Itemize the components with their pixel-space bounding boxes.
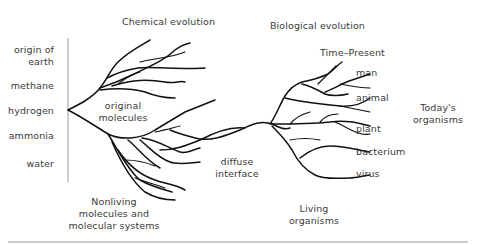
origin-line2: earth <box>6 56 54 68</box>
living-line2: organisms <box>286 215 342 227</box>
label-living-organisms: Living organisms <box>286 203 342 227</box>
time-present-label: Time–Present <box>320 47 385 59</box>
diffuse-line1: diffuse <box>212 156 262 168</box>
label-water: water <box>4 158 54 170</box>
origin-line1: origin of <box>6 44 54 56</box>
chemical-evolution-title: Chemical evolution <box>122 16 212 28</box>
diffuse-line2: interface <box>212 168 262 180</box>
label-origin-of-earth: origin of earth <box>6 44 54 68</box>
label-original-molecules: original molecules <box>98 100 148 124</box>
biological-line1: Biological evolution <box>270 20 350 32</box>
label-methane: methane <box>6 80 54 92</box>
label-ammonia: ammonia <box>4 130 54 142</box>
label-bacterium: bacterium <box>356 146 405 158</box>
label-animal: animal <box>356 92 389 104</box>
chemical-evolution-text: Chemical evolution <box>122 16 212 28</box>
label-nonliving-molecules: Nonliving molecules and molecular system… <box>66 196 162 232</box>
nonliving-line3: molecular systems <box>66 220 162 232</box>
label-virus: virus <box>356 168 380 180</box>
label-plant: plant <box>356 123 381 135</box>
biological-evolution-title: Biological evolution <box>270 20 350 32</box>
original-line2: molecules <box>98 112 148 124</box>
label-hydrogen: hydrogen <box>4 105 54 117</box>
biological-evolution-branches <box>270 62 370 178</box>
todays-line2: organisms <box>410 114 466 126</box>
nonliving-line2: molecules and <box>66 208 162 220</box>
todays-line1: Today's <box>410 102 466 114</box>
living-line1: Living <box>286 203 342 215</box>
label-diffuse-interface: diffuse interface <box>212 156 262 180</box>
label-man: man <box>356 67 377 79</box>
nonliving-line1: Nonliving <box>66 196 162 208</box>
original-line1: original <box>98 100 148 112</box>
label-todays-organisms: Today's organisms <box>410 102 466 126</box>
